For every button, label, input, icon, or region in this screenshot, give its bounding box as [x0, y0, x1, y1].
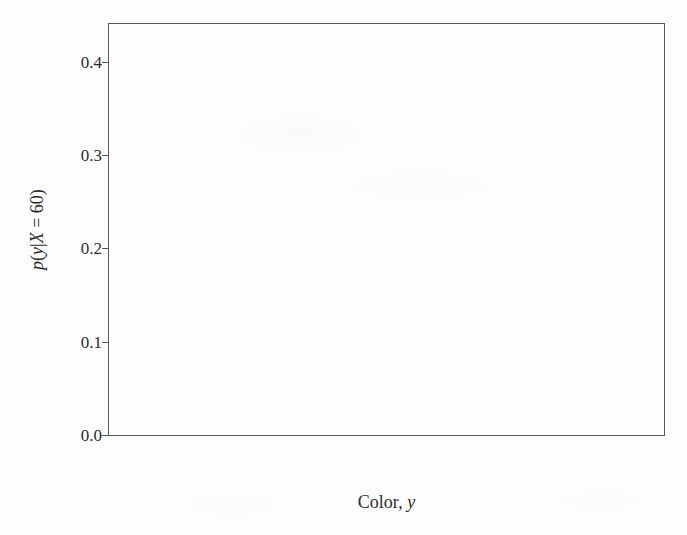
y-axis-title: p(y|X = 60)	[22, 23, 52, 436]
y-axis-title-bar: |	[27, 243, 47, 247]
y-axis-title-close-paren: )	[27, 189, 47, 195]
y-axis-tick-label: 0.4	[81, 53, 102, 70]
y-axis-title-X: X	[27, 232, 47, 243]
y-axis-tick-mark	[102, 248, 109, 249]
figure-canvas: p(y|X = 60) Color, y 0.00.10.20.30.4	[0, 0, 687, 535]
y-axis-tick-mark	[102, 155, 109, 156]
y-axis-title-eq-60: = 60	[27, 195, 47, 232]
y-axis-tick-label: 0.3	[81, 147, 102, 164]
y-axis-title-open-paren: (	[27, 255, 47, 261]
y-axis-title-p: p	[27, 261, 47, 270]
y-axis-tick-label: 0.0	[81, 427, 102, 444]
y-axis-title-y: y	[27, 247, 47, 255]
x-axis-title: Color, y	[108, 492, 665, 513]
x-axis-title-y: y	[407, 492, 415, 512]
plot-area: 0.00.10.20.30.4	[108, 23, 665, 436]
y-axis-tick-mark	[102, 342, 109, 343]
y-axis-tick-mark	[102, 62, 109, 63]
y-axis-tick-label: 0.1	[81, 333, 102, 350]
y-axis-tick-label: 0.2	[81, 240, 102, 257]
x-axis-title-text: Color,	[358, 492, 407, 512]
y-axis-tick-mark	[102, 435, 109, 436]
